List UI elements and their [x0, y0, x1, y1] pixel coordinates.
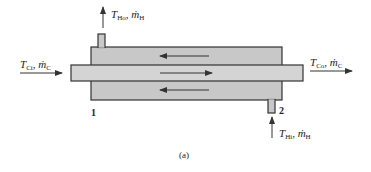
cold-inlet-label: TCi, ṁC [20, 58, 51, 72]
hot-outlet-label: THo, ṁH [111, 8, 144, 22]
cold-outlet-label: TCo, ṁC [310, 56, 343, 70]
end-2-label: 2 [279, 105, 284, 116]
end-1-label: 1 [91, 107, 96, 118]
heat-exchanger-diagram: TCi, ṁC TCo, ṁC THo, ṁH THi, ṁH 1 2 (a) [0, 0, 371, 172]
figure-caption: (a) [179, 150, 189, 160]
hot-inlet-nozzle [268, 100, 275, 114]
hot-inlet-label: THi, ṁH [279, 127, 311, 141]
hot-outlet-nozzle [98, 34, 105, 48]
